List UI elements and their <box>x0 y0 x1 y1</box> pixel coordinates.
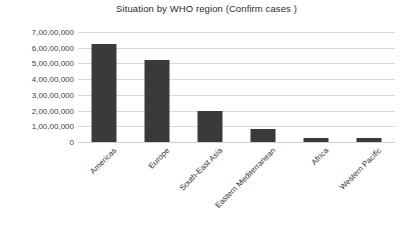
bar[interactable] <box>198 111 223 142</box>
bar[interactable] <box>250 129 275 142</box>
bar-slot <box>342 32 395 142</box>
bar-slot <box>237 32 290 142</box>
x-axis-tick-label: South-East Asia <box>178 146 225 193</box>
x-axis-tick-label: Western Pacific <box>337 146 383 192</box>
bar-slot <box>289 32 342 142</box>
bar[interactable] <box>92 44 117 142</box>
y-axis-tick-label: 2,00,00,000 <box>2 106 74 115</box>
bar[interactable] <box>303 138 328 142</box>
x-axis-tick-label: Eastern Mediterranean <box>213 146 277 210</box>
y-axis-tick-label: 7,00,00,000 <box>2 28 74 37</box>
y-axis-tick-label: 4,00,00,000 <box>2 75 74 84</box>
x-axis: AmericasEuropeSouth-East AsiaEastern Med… <box>78 143 395 231</box>
x-axis-tick-label: Africa <box>309 146 330 167</box>
x-axis-tick-label: Americas <box>89 146 119 176</box>
plot-area <box>78 32 395 142</box>
y-axis-tick-label: 6,00,00,000 <box>2 43 74 52</box>
x-axis-tick-label: Europe <box>147 146 172 171</box>
y-axis: 7,00,00,0006,00,00,0005,00,00,0004,00,00… <box>0 32 74 142</box>
bar[interactable] <box>145 60 170 142</box>
y-axis-tick-label: 3,00,00,000 <box>2 90 74 99</box>
who-region-bar-chart: Situation by WHO region (Confirm cases )… <box>0 0 413 231</box>
bar-slot <box>78 32 131 142</box>
bar-slot <box>184 32 237 142</box>
bar[interactable] <box>356 138 381 142</box>
y-axis-tick-label: 0 <box>2 138 74 147</box>
chart-title: Situation by WHO region (Confirm cases ) <box>0 3 413 14</box>
y-axis-tick-label: 1,00,00,000 <box>2 122 74 131</box>
bar-slot <box>131 32 184 142</box>
y-axis-tick-label: 5,00,00,000 <box>2 59 74 68</box>
